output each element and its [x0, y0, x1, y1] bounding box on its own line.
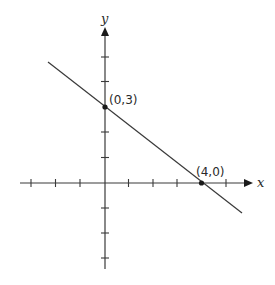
- x-axis: x: [20, 175, 265, 190]
- point-x-intercept: [199, 180, 204, 185]
- y-axis-arrow-icon: [101, 27, 109, 36]
- point-x-intercept-label: (4,0): [196, 165, 224, 179]
- point-y-intercept: [102, 104, 107, 109]
- y-axis: y: [100, 11, 109, 269]
- x-axis-label: x: [257, 175, 265, 190]
- coordinate-graph: x y (0,3) (4,0): [0, 0, 275, 285]
- x-axis-arrow-icon: [244, 179, 253, 187]
- y-axis-label: y: [100, 11, 109, 26]
- linear-function-line: [48, 62, 242, 213]
- point-y-intercept-label: (0,3): [109, 93, 137, 107]
